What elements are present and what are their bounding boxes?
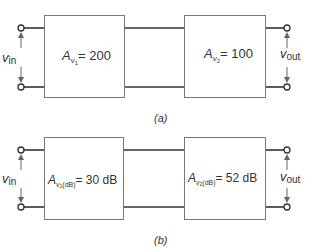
input-terminal-top — [18, 25, 24, 31]
output-terminal-bottom — [284, 204, 290, 210]
output-terminal-bottom — [284, 84, 290, 90]
vin-label: vin — [2, 171, 16, 187]
cascaded-amplifier-diagram: vin vout Av1= 200 Av2= 100 (a) vin vout … — [0, 0, 322, 252]
vin-label: vin — [2, 50, 16, 66]
caption-b: (b) — [154, 234, 168, 246]
vout-label: vout — [280, 46, 301, 62]
caption-a: (a) — [154, 112, 168, 124]
input-terminal-bottom — [18, 204, 24, 210]
input-terminal-bottom — [18, 84, 24, 90]
diagram-b: vin vout Av1(dB)= 30 dB Av2(dB)= 52 dB (… — [2, 138, 301, 247]
output-terminal-top — [284, 147, 290, 153]
vout-label: vout — [280, 169, 301, 185]
input-terminal-top — [18, 147, 24, 153]
diagram-a: vin vout Av1= 200 Av2= 100 (a) — [2, 16, 301, 125]
output-terminal-top — [284, 25, 290, 31]
